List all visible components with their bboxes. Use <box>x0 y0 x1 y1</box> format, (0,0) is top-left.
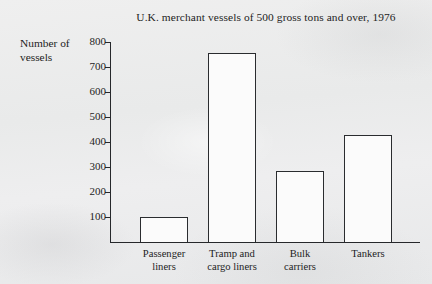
bar-chart: U.K. merchant vessels of 500 gross tons … <box>0 0 432 284</box>
bar-label-line2: carriers <box>266 261 334 274</box>
y-tick-label: 800 <box>90 35 107 47</box>
bar-label-passenger-liners: Passengerliners <box>130 248 198 273</box>
x-axis-line <box>110 242 420 243</box>
y-axis-line <box>110 42 111 242</box>
y-axis-label-line2: vessels <box>20 50 98 64</box>
bar-bulk-carriers[interactable] <box>276 171 324 242</box>
bar-passenger-liners[interactable] <box>140 217 188 242</box>
chart-title: U.K. merchant vessels of 500 gross tons … <box>110 11 422 23</box>
y-tick-label: 300 <box>90 160 107 172</box>
bar-label-line1: Tankers <box>334 248 402 261</box>
plot-area: 100200300400500600700800 Passengerliners… <box>110 42 420 242</box>
bar-label-tankers: Tankers <box>334 248 402 261</box>
y-axis-label-line1: Number of <box>20 36 98 50</box>
bar-label-bulk-carriers: Bulkcarriers <box>266 248 334 273</box>
y-tick-label: 700 <box>90 60 107 72</box>
bar-label-line1: Tramp and <box>198 248 266 261</box>
y-tick-label: 400 <box>90 135 107 147</box>
bar-tramp-and-cargo-liners[interactable] <box>208 53 256 242</box>
y-tick-label: 600 <box>90 85 107 97</box>
bar-label-line1: Passenger <box>130 248 198 261</box>
bar-label-line1: Bulk <box>266 248 334 261</box>
y-tick-label: 200 <box>90 185 107 197</box>
y-axis-label: Number of vessels <box>20 36 98 64</box>
y-tick-label: 100 <box>90 210 107 222</box>
bar-label-line2: liners <box>130 261 198 274</box>
bar-label-line2: cargo liners <box>198 261 266 274</box>
bar-tankers[interactable] <box>344 135 392 243</box>
y-tick-label: 500 <box>90 110 107 122</box>
bar-label-tramp-and-cargo-liners: Tramp andcargo liners <box>198 248 266 273</box>
